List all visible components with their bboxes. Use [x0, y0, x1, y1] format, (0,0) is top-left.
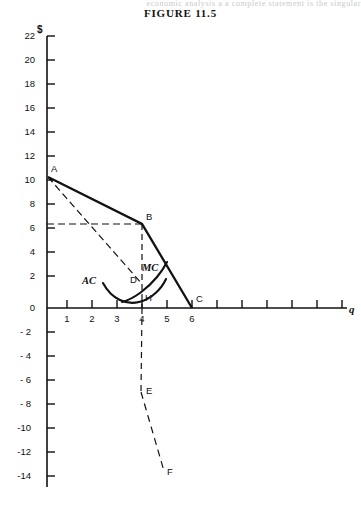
- point-label-B: B: [146, 211, 152, 222]
- y-tick-label-neg14: -14: [5, 470, 31, 481]
- x-axis-ticks: [67, 300, 342, 308]
- x-tick-label-6: 6: [185, 313, 199, 324]
- y-tick-label-neg4: - 4: [5, 350, 31, 361]
- y-tick-label-12: 12: [9, 150, 35, 161]
- x-axis-label-q: q: [349, 303, 355, 315]
- ac-curve-label: AC: [82, 275, 96, 286]
- x-tick-label-5: 5: [160, 313, 174, 324]
- y-tick-label-8: 8: [9, 198, 35, 209]
- y-tick-label-0: 0: [9, 302, 35, 313]
- figure-svg: [0, 0, 361, 510]
- x-tick-label-1: 1: [60, 313, 74, 324]
- y-tick-label-neg8: - 8: [5, 398, 31, 409]
- mc-curve-label: MC: [142, 262, 158, 273]
- y-tick-label-22: 22: [9, 30, 35, 41]
- point-label-F: F: [167, 466, 173, 477]
- mr-upper-segment-dashed: [48, 177, 142, 284]
- point-label-H: H: [145, 292, 152, 303]
- y-tick-label-neg6: - 6: [5, 374, 31, 385]
- x-tick-label-2: 2: [85, 313, 99, 324]
- y-tick-label-2: 2: [9, 270, 35, 281]
- y-tick-label-10: 10: [9, 174, 35, 185]
- point-label-D: D: [130, 274, 137, 285]
- x-tick-label-3: 3: [110, 313, 124, 324]
- y-tick-label-4: 4: [9, 246, 35, 257]
- point-label-A: A: [51, 163, 57, 174]
- y-tick-label-14: 14: [9, 126, 35, 137]
- y-tick-label-18: 18: [9, 78, 35, 89]
- y-tick-label-16: 16: [9, 102, 35, 113]
- figure-plot-area: $ 22 20 18 16 14 12 10 8 6 4 2 0 - 2 - 4…: [0, 0, 361, 510]
- kinked-demand-curve: [48, 177, 192, 308]
- point-label-E: E: [146, 385, 152, 396]
- y-tick-label-6: 6: [9, 222, 35, 233]
- y-tick-label-neg2: - 2: [5, 326, 31, 337]
- x-tick-label-4: 4: [135, 313, 149, 324]
- y-tick-label-20: 20: [9, 54, 35, 65]
- y-axis-ticks: [47, 36, 55, 476]
- mr-lower-segment-dashed: [141, 392, 164, 471]
- y-tick-label-neg10: -10: [5, 422, 31, 433]
- point-label-C: C: [196, 293, 203, 304]
- y-tick-label-neg12: -12: [5, 446, 31, 457]
- y-axis-unit-label: $: [37, 24, 43, 35]
